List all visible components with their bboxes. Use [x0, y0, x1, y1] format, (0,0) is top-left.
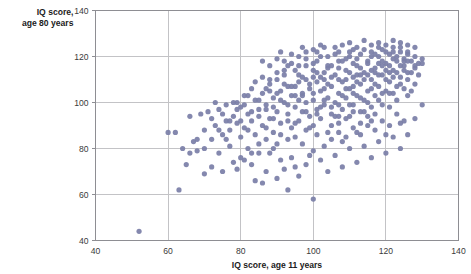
x-tick-label: 120	[379, 246, 394, 256]
scatter-point	[369, 118, 374, 123]
scatter-point	[307, 82, 312, 87]
scatter-point	[260, 180, 265, 185]
scatter-point	[369, 77, 374, 82]
scatter-point	[195, 148, 200, 153]
scatter-point	[343, 116, 348, 121]
scatter-point	[351, 84, 356, 89]
scatter-point	[398, 40, 403, 45]
scatter-point	[420, 56, 425, 61]
scatter-point	[347, 146, 352, 151]
scatter-point	[282, 68, 287, 73]
scatter-point	[354, 79, 359, 84]
scatter-point	[242, 102, 247, 107]
scatter-point	[372, 82, 377, 87]
scatter-point	[365, 61, 370, 66]
scatter-point	[274, 91, 279, 96]
scatter-point	[314, 132, 319, 137]
scatter-point	[351, 109, 356, 114]
scatter-point	[303, 109, 308, 114]
scatter-point	[264, 102, 269, 107]
plot-frame	[96, 11, 459, 241]
scatter-point	[267, 63, 272, 68]
scatter-point	[398, 75, 403, 80]
scatter-point	[238, 118, 243, 123]
scatter-point	[202, 128, 207, 133]
scatter-point	[347, 70, 352, 75]
scatter-point	[202, 171, 207, 176]
scatter-point	[278, 132, 283, 137]
scatter-point	[274, 141, 279, 146]
scatter-point	[253, 79, 258, 84]
scatter-point	[420, 102, 425, 107]
scatter-point	[336, 121, 341, 126]
scatter-point	[213, 100, 218, 105]
scatter-point	[256, 107, 261, 112]
scatter-point	[401, 59, 406, 64]
scatter-point	[398, 82, 403, 87]
chart-canvas: 406080100120140 406080100120140 IQ score…	[0, 0, 471, 274]
scatter-point	[369, 155, 374, 160]
scatter-point	[372, 111, 377, 116]
scatter-point	[256, 98, 261, 103]
scatter-point	[264, 125, 269, 130]
scatter-point	[227, 118, 232, 123]
scatter-point	[220, 132, 225, 137]
scatter-point	[416, 72, 421, 77]
scatter-point	[289, 125, 294, 130]
y-tick-label: 120	[74, 52, 89, 62]
scatter-point	[249, 118, 254, 123]
scatter-point	[340, 107, 345, 112]
scatter-point	[412, 82, 417, 87]
scatter-point	[311, 91, 316, 96]
scatter-point	[347, 102, 352, 107]
scatter-point	[322, 70, 327, 75]
scatter-point	[249, 162, 254, 167]
scatter-point	[340, 93, 345, 98]
scatter-point	[318, 116, 323, 121]
scatter-point	[264, 107, 269, 112]
data-points	[136, 38, 424, 234]
scatter-point	[343, 77, 348, 82]
scatter-point	[340, 42, 345, 47]
scatter-point	[362, 38, 367, 43]
scatter-point	[322, 98, 327, 103]
scatter-point	[314, 111, 319, 116]
scatter-point	[300, 141, 305, 146]
scatter-point	[264, 86, 269, 91]
scatter-point	[405, 132, 410, 137]
scatter-point	[274, 109, 279, 114]
scatter-point	[282, 59, 287, 64]
scatter-point	[329, 137, 334, 142]
scatter-point	[318, 105, 323, 110]
scatter-point	[296, 54, 301, 59]
scatter-point	[383, 49, 388, 54]
x-tick-label: 100	[306, 246, 321, 256]
scatter-point	[136, 229, 141, 234]
scatter-point	[300, 93, 305, 98]
scatter-point	[398, 146, 403, 151]
scatter-point	[325, 130, 330, 135]
scatter-point	[369, 86, 374, 91]
scatter-point	[274, 56, 279, 61]
scatter-point	[325, 54, 330, 59]
scatter-point	[209, 137, 214, 142]
scatter-point	[296, 63, 301, 68]
scatter-point	[412, 63, 417, 68]
scatter-point	[314, 79, 319, 84]
scatter-point	[271, 146, 276, 151]
scatter-point	[343, 134, 348, 139]
scatter-point	[391, 75, 396, 80]
scatter-point	[282, 82, 287, 87]
scatter-point	[391, 45, 396, 50]
scatter-point	[351, 125, 356, 130]
scatter-point	[227, 144, 232, 149]
scatter-point	[231, 160, 236, 165]
scatter-point	[245, 128, 250, 133]
scatter-point	[376, 61, 381, 66]
scatter-point	[420, 61, 425, 66]
scatter-point	[318, 54, 323, 59]
scatter-point	[209, 116, 214, 121]
scatter-point	[394, 70, 399, 75]
scatter-point	[260, 75, 265, 80]
scatter-point	[278, 157, 283, 162]
